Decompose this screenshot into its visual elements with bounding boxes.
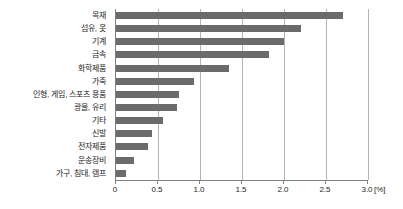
- x-axis: 00.51.01.52.02.53.0: [115, 181, 367, 185]
- bar-row: [116, 154, 368, 167]
- category-label: 인형, 게임, 스포츠 용품: [33, 90, 110, 99]
- bar-row: [116, 35, 368, 48]
- bar-chart: 목재섬유, 옷기계금속화학제품가죽인형, 게임, 스포츠 용품광물, 유리기타신…: [0, 0, 403, 209]
- bar: [116, 65, 229, 72]
- x-tick-label: 2.0: [277, 185, 288, 194]
- bar-row: [116, 101, 368, 114]
- category-label: 가구, 침대, 램프: [56, 169, 110, 178]
- x-tick-label: 2.5: [319, 185, 330, 194]
- x-tick-mark: [157, 181, 158, 184]
- bar: [116, 130, 152, 137]
- x-tick-mark: [199, 181, 200, 184]
- bar: [116, 117, 163, 124]
- category-label: 전자제품: [78, 142, 110, 151]
- plot-area: [115, 9, 368, 181]
- x-tick-mark: [367, 181, 368, 184]
- x-tick-label: 3.0: [361, 185, 372, 194]
- x-tick-label: 1.0: [193, 185, 204, 194]
- bar-row: [116, 140, 368, 153]
- bar: [116, 104, 177, 111]
- category-label: 기타: [92, 116, 110, 125]
- bar-row: [116, 127, 368, 140]
- bar: [116, 91, 179, 98]
- bar: [116, 25, 301, 32]
- category-axis-labels: 목재섬유, 옷기계금속화학제품가죽인형, 게임, 스포츠 용품광물, 유리기타신…: [0, 9, 110, 180]
- bar-row: [116, 75, 368, 88]
- bar: [116, 170, 126, 177]
- bar: [116, 51, 269, 58]
- category-label: 광물, 유리: [74, 103, 110, 112]
- category-label: 기계: [92, 37, 110, 46]
- bar-row: [116, 167, 368, 180]
- bar: [116, 143, 148, 150]
- bar: [116, 38, 284, 45]
- x-tick-mark: [241, 181, 242, 184]
- x-tick-label: 1.5: [235, 185, 246, 194]
- category-label: 금속: [92, 50, 110, 59]
- x-tick-label: 0: [113, 185, 117, 194]
- gridline: [368, 9, 369, 180]
- bar-row: [116, 88, 368, 101]
- bar-row: [116, 22, 368, 35]
- x-tick-label: 0.5: [151, 185, 162, 194]
- category-label: 운송장비: [78, 156, 110, 165]
- category-label: 가죽: [92, 77, 110, 86]
- category-label: 화학제품: [78, 64, 110, 73]
- bar-row: [116, 9, 368, 22]
- bar-row: [116, 48, 368, 61]
- category-label: 신발: [92, 129, 110, 138]
- bars-layer: [116, 9, 368, 180]
- x-tick-mark: [115, 181, 116, 184]
- bar-row: [116, 114, 368, 127]
- bar-row: [116, 62, 368, 75]
- axis-unit-label: [%]: [374, 185, 386, 194]
- category-label: 목재: [92, 11, 110, 20]
- x-tick-mark: [283, 181, 284, 184]
- x-tick-mark: [325, 181, 326, 184]
- bar: [116, 78, 194, 85]
- bar: [116, 157, 134, 164]
- bar: [116, 12, 343, 19]
- category-label: 섬유, 옷: [81, 24, 110, 33]
